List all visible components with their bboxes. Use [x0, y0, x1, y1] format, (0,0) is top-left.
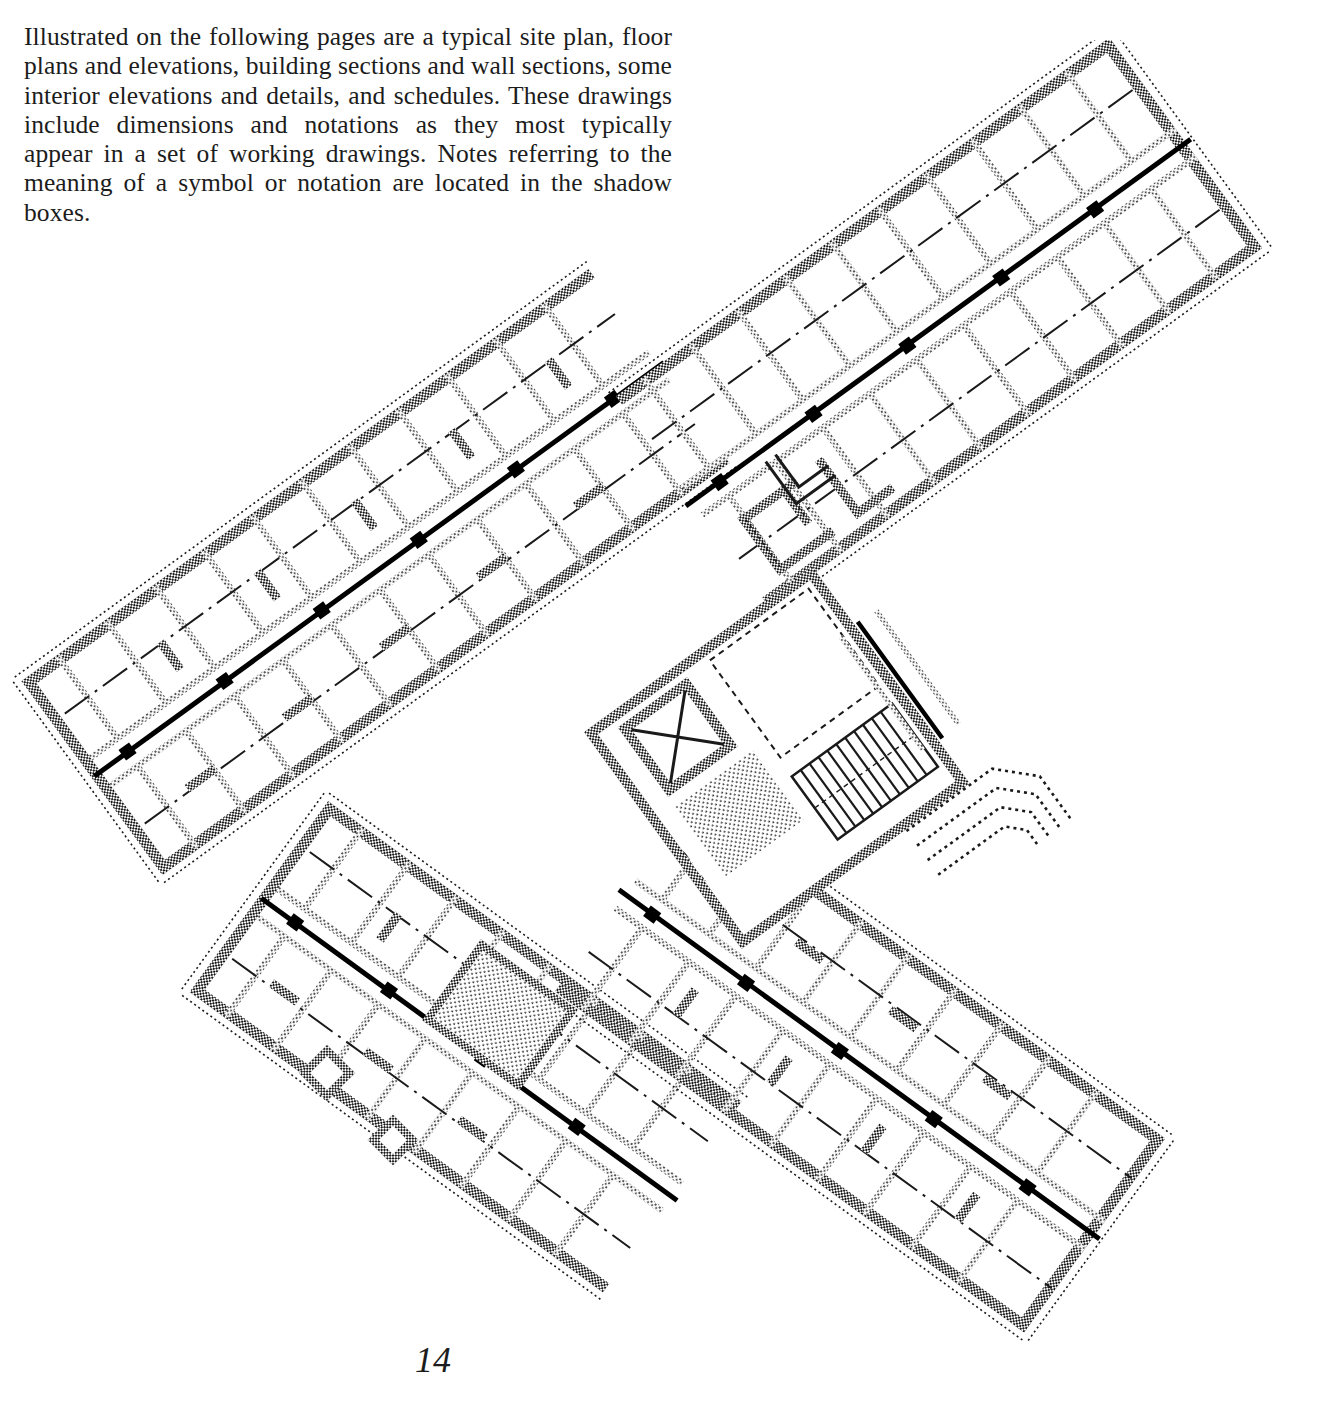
central-core	[584, 566, 970, 949]
floor-plan-figure	[0, 40, 1329, 1380]
wing-ne-exterior-wall-b	[616, 40, 1116, 405]
wing-southeast	[544, 787, 1175, 1343]
wing-northeast	[605, 40, 1272, 617]
utility-room	[422, 939, 578, 1090]
floor-plan-svg	[0, 40, 1329, 1380]
page-canvas: Illustrated on the following pages are a…	[0, 0, 1329, 1416]
page-number: 14	[415, 1339, 451, 1381]
service-cluster	[737, 434, 895, 576]
